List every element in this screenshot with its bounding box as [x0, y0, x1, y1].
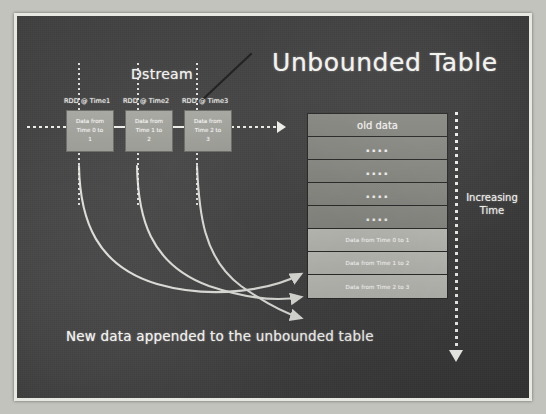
rdd-box-2-line3: 2: [126, 135, 172, 144]
table-row: Data from Time 1 to 2: [308, 252, 447, 275]
rdd-box-2[interactable]: Data from Time 1 to 2: [125, 110, 173, 152]
rdd-box-1-line1: Data from: [67, 117, 113, 126]
unbounded-table: old data .... .... .... .... Data from T…: [307, 113, 448, 299]
chalkboard-surface: Dstream RDD @ Time1 Data from Time 0 to …: [17, 16, 529, 398]
stream-out-arrowhead: [277, 121, 286, 133]
rdd-box-2-line1: Data from: [126, 117, 172, 126]
increasing-time-dotted-line: [455, 112, 458, 355]
rdd-box-3[interactable]: Data from Time 2 to 3: [184, 110, 232, 152]
stream-out-dotted-line: [225, 126, 277, 128]
rdd-box-3-line3: 3: [185, 135, 231, 144]
curve-arrow-rdd2: [137, 166, 301, 299]
rdd-label-3: RDD @ Time3: [182, 97, 228, 105]
table-row: ....: [308, 137, 447, 160]
increasing-time-label: Increasing Time: [461, 191, 523, 217]
curve-arrow-rdd1: [79, 166, 301, 292]
rdd-box-3-line2: Time 2 to: [185, 126, 231, 135]
pointer-leader-line: [200, 54, 251, 102]
table-row: old data: [308, 114, 447, 137]
rdd-box-2-line2: Time 1 to: [126, 126, 172, 135]
table-row: Data from Time 2 to 3: [308, 275, 447, 298]
table-row: ....: [308, 160, 447, 183]
table-row: Data from Time 0 to 1: [308, 229, 447, 252]
rdd-box-3-line1: Data from: [185, 117, 231, 126]
table-row: ....: [308, 206, 447, 229]
slide-canvas: Dstream RDD @ Time1 Data from Time 0 to …: [0, 0, 546, 414]
rdd-box-1-line3: 1: [67, 135, 113, 144]
stream-in-dotted-line: [27, 126, 71, 128]
rdd-label-1: RDD @ Time1: [64, 97, 110, 105]
rdd-box-1[interactable]: Data from Time 0 to 1: [66, 110, 114, 152]
page-title: Unbounded Table: [272, 48, 498, 77]
slide-caption: New data appended to the unbounded table: [66, 328, 374, 344]
dstream-label: Dstream: [131, 66, 193, 82]
rdd-box-1-line2: Time 0 to: [67, 126, 113, 135]
curve-arrow-rdd3: [197, 166, 301, 318]
rdd-label-2: RDD @ Time2: [123, 97, 169, 105]
increasing-time-arrowhead: [449, 350, 463, 362]
table-row: ....: [308, 183, 447, 206]
